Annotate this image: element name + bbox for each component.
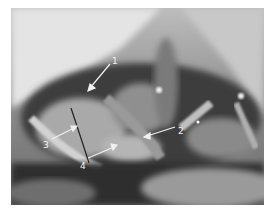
annotation-label-4: 4 bbox=[80, 162, 86, 171]
annotation-label-3: 3 bbox=[43, 141, 49, 150]
annotation-label-1: 1 bbox=[112, 57, 118, 66]
annotation-label-2: 2 bbox=[178, 127, 184, 136]
surgical-photo: 1 2 3 4 bbox=[11, 8, 264, 205]
photo-content bbox=[11, 8, 264, 205]
